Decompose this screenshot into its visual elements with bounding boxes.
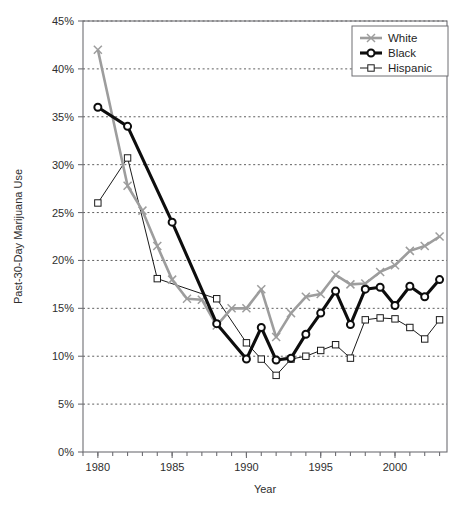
data-point-marker xyxy=(154,275,160,281)
data-point-marker xyxy=(436,276,443,283)
data-point-marker xyxy=(422,336,428,342)
data-point-marker xyxy=(347,321,354,328)
x-tick-label: 2000 xyxy=(383,461,407,473)
y-tick-label: 40% xyxy=(52,63,74,75)
data-point-marker xyxy=(377,284,384,291)
data-point-marker xyxy=(406,283,413,290)
chart-legend: WhiteBlackHispanic xyxy=(352,26,448,76)
data-point-marker xyxy=(95,200,101,206)
legend-label-black: Black xyxy=(388,47,416,59)
series-white xyxy=(94,46,444,341)
data-point-marker xyxy=(302,331,309,338)
data-point-marker xyxy=(421,293,428,300)
data-point-marker xyxy=(214,296,220,302)
data-point-marker xyxy=(407,324,413,330)
legend-label-hispanic: Hispanic xyxy=(388,62,432,74)
legend-label-white: White xyxy=(388,32,417,44)
y-tick-label: 25% xyxy=(52,207,74,219)
data-point-marker xyxy=(94,104,101,111)
data-point-marker xyxy=(332,271,340,279)
x-tick-label: 1985 xyxy=(160,461,184,473)
y-tick-label: 45% xyxy=(52,15,74,27)
data-point-marker xyxy=(273,357,280,364)
data-point-marker xyxy=(287,309,295,317)
data-point-marker xyxy=(362,286,369,293)
data-point-marker xyxy=(362,317,368,323)
grid-lines xyxy=(83,21,447,404)
x-tick-label: 1980 xyxy=(86,461,110,473)
data-point-marker xyxy=(243,340,249,346)
data-point-marker xyxy=(288,355,295,362)
data-point-marker xyxy=(368,65,374,71)
data-point-marker xyxy=(347,355,353,361)
data-point-marker xyxy=(258,324,265,331)
y-tick-label: 10% xyxy=(52,350,74,362)
data-point-marker xyxy=(169,219,176,226)
y-tick-label: 20% xyxy=(52,254,74,266)
data-point-marker xyxy=(332,288,339,295)
data-point-marker xyxy=(436,317,442,323)
y-tick-label: 5% xyxy=(58,398,74,410)
data-point-marker xyxy=(124,123,131,130)
plot-area-border xyxy=(83,21,447,452)
series-line xyxy=(98,50,440,337)
data-point-marker xyxy=(377,315,383,321)
data-point-marker xyxy=(332,342,338,348)
x-axis-title: Year xyxy=(254,483,277,495)
data-point-marker xyxy=(436,233,444,241)
data-point-marker xyxy=(124,155,130,161)
data-point-marker xyxy=(243,356,250,363)
chart-title xyxy=(0,0,467,14)
y-tick-label: 30% xyxy=(52,159,74,171)
data-point-marker xyxy=(368,50,375,57)
x-tick-label: 1990 xyxy=(234,461,258,473)
data-point-marker xyxy=(318,347,324,353)
data-point-marker xyxy=(258,356,264,362)
chart-container: 0%5%10%15%20%25%30%35%40%45%198019851990… xyxy=(0,0,467,507)
y-tick-label: 35% xyxy=(52,111,74,123)
data-point-marker xyxy=(213,320,220,327)
y-tick-label: 15% xyxy=(52,302,74,314)
data-point-marker xyxy=(392,316,398,322)
series-line xyxy=(98,107,440,360)
data-point-marker xyxy=(303,353,309,359)
data-point-marker xyxy=(273,372,279,378)
y-tick-label: 0% xyxy=(58,446,74,458)
marijuana-use-line-chart: 0%5%10%15%20%25%30%35%40%45%198019851990… xyxy=(0,0,467,507)
data-point-marker xyxy=(392,302,399,309)
data-point-marker xyxy=(317,310,324,317)
axes xyxy=(78,21,447,458)
y-axis-title: Past-30-Day Marijuana Use xyxy=(12,169,24,304)
x-tick-label: 1995 xyxy=(308,461,332,473)
